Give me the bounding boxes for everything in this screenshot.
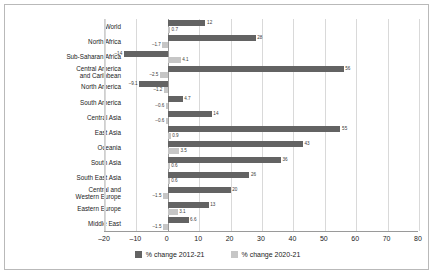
bar-3-series-1 xyxy=(160,72,168,78)
x-tick-70: 70 xyxy=(383,235,391,242)
legend-swatch-dark xyxy=(135,251,142,258)
value-label-11-series-0: 20 xyxy=(232,187,237,193)
value-label-5-series-1: –0.6 xyxy=(155,103,164,109)
bar-0-series-1 xyxy=(168,27,170,33)
bar-9-series-1 xyxy=(168,163,170,169)
bar-3-series-0 xyxy=(168,66,344,72)
bar-7-series-1 xyxy=(168,133,171,139)
value-label-2-series-0: –14 xyxy=(115,51,123,57)
plot-area: 120.728–1.7–144.156–2.5–9.1–1.24.7–0.614… xyxy=(104,19,418,231)
legend-item-2012-21: % change 2012-21 xyxy=(135,251,205,258)
bar-1-series-1 xyxy=(162,42,167,48)
value-label-5-series-0: 4.7 xyxy=(184,96,190,102)
bar-5-series-1 xyxy=(166,103,168,109)
legend-item-2020-21: % change 2020-21 xyxy=(231,251,301,258)
bar-4-series-1 xyxy=(164,87,168,93)
value-label-10-series-0: 26 xyxy=(251,172,256,178)
value-label-12-series-1: 3.1 xyxy=(179,209,185,215)
gridline-70 xyxy=(388,19,389,231)
gridline-80 xyxy=(419,19,420,231)
bar-2-series-1 xyxy=(168,57,181,63)
bar-6-series-1 xyxy=(166,118,168,124)
bar-8-series-1 xyxy=(168,148,179,154)
value-label-8-series-1: 3.5 xyxy=(180,148,186,154)
value-axis: –20–1001020304050607080 xyxy=(104,231,418,247)
bar-10-series-1 xyxy=(168,178,170,184)
bar-11-series-0 xyxy=(168,187,231,193)
chart-frame: WorldNorth AfricaSub-Saharan AfricaCentr… xyxy=(4,4,429,270)
bar-10-series-0 xyxy=(168,172,250,178)
value-label-0-series-0: 12 xyxy=(207,20,212,26)
value-label-12-series-0: 13 xyxy=(210,202,215,208)
bar-8-series-0 xyxy=(168,141,303,147)
value-label-13-series-0: 6.6 xyxy=(190,217,196,223)
value-label-3-series-0: 56 xyxy=(345,66,350,72)
x-tick-80: 80 xyxy=(414,235,422,242)
legend-swatch-light xyxy=(231,251,238,258)
gridline-20 xyxy=(231,19,232,231)
x-tick-30: 30 xyxy=(257,235,265,242)
legend-label-2012-21: % change 2012-21 xyxy=(146,251,205,258)
value-label-0-series-1: 0.7 xyxy=(172,27,178,33)
x-tick-40: 40 xyxy=(288,235,296,242)
value-label-10-series-1: 0.6 xyxy=(171,178,177,184)
x-tick--10: –10 xyxy=(130,235,142,242)
value-label-1-series-1: –1.7 xyxy=(152,42,161,48)
bar-7-series-0 xyxy=(168,126,341,132)
value-label-2-series-1: 4.1 xyxy=(182,57,188,63)
zero-line xyxy=(168,19,169,231)
value-label-9-series-1: 0.6 xyxy=(171,163,177,169)
bar-4-series-0 xyxy=(139,81,168,87)
chart-legend: % change 2012-21 % change 2020-21 xyxy=(5,251,430,258)
bar-9-series-0 xyxy=(168,157,281,163)
value-label-4-series-1: –1.2 xyxy=(153,87,162,93)
bar-5-series-0 xyxy=(168,96,183,102)
x-tick-10: 10 xyxy=(194,235,202,242)
value-label-3-series-1: –2.5 xyxy=(149,72,158,78)
bar-11-series-1 xyxy=(163,193,168,199)
value-label-13-series-1: –1.5 xyxy=(153,224,162,230)
bar-chart: WorldNorth AfricaSub-Saharan AfricaCentr… xyxy=(5,5,430,271)
value-label-7-series-1: 0.9 xyxy=(172,133,178,139)
legend-label-2020-21: % change 2020-21 xyxy=(242,251,301,258)
x-tick-0: 0 xyxy=(165,235,169,242)
gridline-50 xyxy=(325,19,326,231)
gridline-10 xyxy=(199,19,200,231)
bar-0-series-0 xyxy=(168,20,206,26)
value-label-6-series-1: –0.6 xyxy=(155,118,164,124)
bar-12-series-0 xyxy=(168,202,209,208)
bar-6-series-0 xyxy=(168,111,212,117)
x-tick-60: 60 xyxy=(351,235,359,242)
x-tick--20: –20 xyxy=(98,235,110,242)
bar-13-series-0 xyxy=(168,217,189,223)
value-label-7-series-0: 55 xyxy=(342,126,347,132)
value-label-9-series-0: 36 xyxy=(282,157,287,163)
gridline--20 xyxy=(105,19,106,231)
value-label-8-series-0: 43 xyxy=(304,141,309,147)
bar-12-series-1 xyxy=(168,209,178,215)
bar-13-series-1 xyxy=(163,224,168,230)
gridline-60 xyxy=(356,19,357,231)
value-label-4-series-0: –9.1 xyxy=(129,81,138,87)
value-label-6-series-0: 14 xyxy=(213,111,218,117)
bar-2-series-0 xyxy=(124,51,168,57)
bar-1-series-0 xyxy=(168,35,256,41)
x-tick-20: 20 xyxy=(226,235,234,242)
value-label-11-series-1: –1.5 xyxy=(153,193,162,199)
value-label-1-series-0: 28 xyxy=(257,35,262,41)
gridline-40 xyxy=(293,19,294,231)
x-tick-50: 50 xyxy=(320,235,328,242)
gridline-30 xyxy=(262,19,263,231)
